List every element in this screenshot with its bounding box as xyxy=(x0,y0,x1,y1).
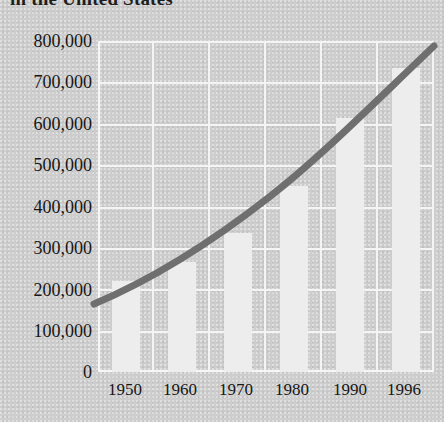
x-axis-line xyxy=(98,370,434,372)
bar-1990 xyxy=(336,118,364,372)
gridline xyxy=(98,124,434,126)
x-tick-label: 1970 xyxy=(219,380,253,400)
gridline xyxy=(98,331,434,333)
bar-1950 xyxy=(112,281,140,372)
y-tick-label: 0 xyxy=(83,362,92,383)
gridline xyxy=(98,248,434,250)
y-tick-label: 200,000 xyxy=(34,280,93,301)
gridline xyxy=(98,41,434,43)
y-tick-label: 100,000 xyxy=(34,321,93,342)
x-tick-label: 1996 xyxy=(387,380,421,400)
gridline xyxy=(98,207,434,209)
gridline xyxy=(98,165,434,167)
x-tick-label: 1990 xyxy=(333,380,367,400)
bar-1970 xyxy=(224,233,252,372)
gridline xyxy=(320,41,322,372)
gridline xyxy=(98,82,434,84)
y-tick-label: 500,000 xyxy=(34,155,93,176)
y-tick-label: 300,000 xyxy=(34,238,93,259)
bar-1980 xyxy=(280,186,308,372)
y-tick-label: 600,000 xyxy=(34,114,93,135)
y-tick-label: 400,000 xyxy=(34,197,93,218)
chart-figure: in the United States 800,000 700,000 600… xyxy=(0,0,444,422)
plot-area xyxy=(98,41,434,372)
gridline xyxy=(98,289,434,291)
gridline xyxy=(264,41,266,372)
gridline xyxy=(208,41,210,372)
gridline xyxy=(376,41,378,372)
chart-title: in the United States xyxy=(10,0,173,10)
x-tick-label: 1960 xyxy=(163,380,197,400)
x-tick-label: 1980 xyxy=(275,380,309,400)
y-tick-label: 800,000 xyxy=(34,31,93,52)
y-tick-label: 700,000 xyxy=(34,72,93,93)
bar-1960 xyxy=(168,262,196,372)
gridline xyxy=(432,41,434,372)
y-axis-line xyxy=(98,41,100,372)
gridline xyxy=(152,41,154,372)
bar-1996 xyxy=(392,68,420,372)
x-tick-label: 1950 xyxy=(108,380,142,400)
